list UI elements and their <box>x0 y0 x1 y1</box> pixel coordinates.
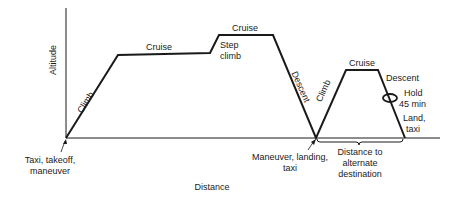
land-label-1: Land, <box>403 113 426 123</box>
hold-label-1: Hold <box>404 88 423 98</box>
landing-label-1: Maneuver, landing, <box>252 152 328 162</box>
descent2-label: Descent <box>386 73 420 83</box>
step-climb-label-1: Step <box>220 40 239 50</box>
takeoff-label-1: Taxi, takeoff, <box>25 155 75 165</box>
takeoff-arrowhead-icon <box>63 139 67 144</box>
landing-label-2: taxi <box>283 163 297 173</box>
takeoff-label-2: maneuver <box>30 166 70 176</box>
land-label-2: taxi <box>406 124 420 134</box>
x-axis-label: Distance <box>194 182 229 192</box>
y-axis-label: Altitude <box>48 45 58 75</box>
hold-label-2: 45 min <box>399 99 426 109</box>
alternate-distance-brace <box>317 139 403 145</box>
alternate-label-2: alternate <box>342 158 377 168</box>
climb2-label: Climb <box>314 78 332 103</box>
alternate-label-1: Distance to <box>337 147 382 157</box>
mission-profile-diagram: Altitude Distance Climb Cruise Step clim… <box>0 0 453 199</box>
step-climb-label-2: climb <box>220 51 241 61</box>
cruise1-label: Cruise <box>146 42 172 52</box>
cruise2-label: Cruise <box>232 23 258 33</box>
climb1-label: Climb <box>75 90 96 115</box>
alternate-label-3: destination <box>338 169 382 179</box>
cruise3-label: Cruise <box>349 58 375 68</box>
descent1-label: Descent <box>289 70 312 105</box>
